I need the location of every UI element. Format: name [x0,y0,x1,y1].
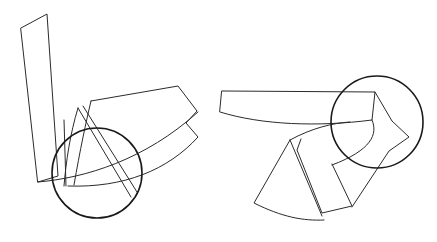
left-cluster [21,14,198,218]
left-inner-peak-right-edge [83,106,137,192]
left-tall-quadrilateral [21,14,58,182]
right-bar-extension-wedge [352,92,409,207]
figure-svg [0,0,437,242]
right-lower-left-fan-right-edge [290,140,322,216]
right-cluster [220,76,423,220]
left-lower-curved-band [38,112,198,182]
right-long-bar [220,91,375,124]
drawing-canvas [0,0,437,242]
right-lower-left-fan [254,140,324,220]
right-wedge-inner-edge [332,120,374,165]
right-fan-connector-curve [290,122,350,140]
left-fan-wedge [68,86,198,186]
left-inner-peak-shape [78,108,131,197]
